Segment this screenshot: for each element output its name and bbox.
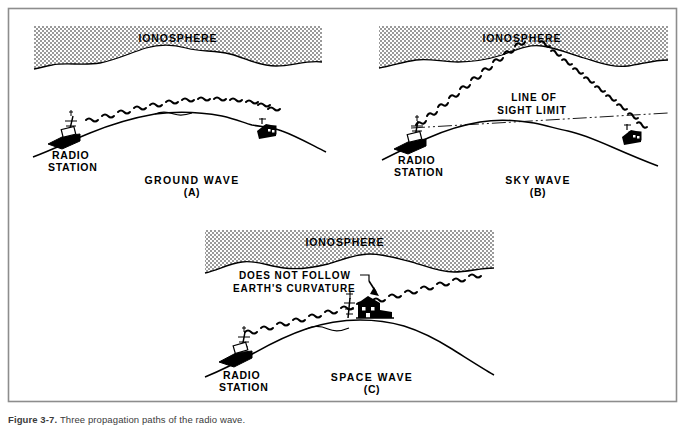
radio-propagation-diagram: IONOSPHERE — [0, 0, 690, 428]
panel-letter-c: (C) — [364, 383, 380, 395]
panel-space-wave: IONOSPHERE — [205, 230, 494, 395]
panel-letter-b: (B) — [530, 186, 546, 198]
radio-station-label-a-line1: RADIO — [52, 149, 89, 161]
panel-ground-wave: IONOSPHERE — [33, 26, 326, 198]
figure-caption-text: Three propagation paths of the radio wav… — [60, 414, 245, 425]
radio-station-a — [48, 110, 80, 149]
figure-caption-label: Figure 3-7. — [8, 414, 57, 425]
panel-letter-a: (A) — [184, 186, 200, 198]
ground-wave-path-a — [86, 98, 280, 122]
ionosphere-label-c: IONOSPHERE — [305, 236, 384, 248]
receiver-house-c — [344, 292, 394, 318]
radio-station-label-a-line2: STATION — [48, 161, 97, 173]
radio-station-label-c-line1: RADIO — [223, 369, 260, 381]
curvature-note-arrowhead — [370, 287, 379, 296]
radio-station-c — [219, 326, 252, 367]
figure-border — [9, 9, 677, 402]
radio-station-label-c-line2: STATION — [219, 381, 268, 393]
radio-station-b — [394, 115, 426, 154]
radio-station-label-b-line2: STATION — [394, 166, 443, 178]
curvature-note-leader — [360, 275, 369, 281]
ionosphere-label-b: IONOSPHERE — [482, 32, 561, 44]
panel-sky-wave: IONOSPHERE — [379, 26, 668, 198]
figure-caption: Figure 3-7. Three propagation paths of t… — [8, 414, 608, 425]
curvature-note-line2: EARTH'S CURVATURE — [233, 283, 356, 294]
panel-title-b: SKY WAVE — [505, 174, 571, 186]
line-of-sight-label-line1: LINE OF — [511, 92, 557, 103]
figure-root: IONOSPHERE — [0, 0, 690, 428]
ionosphere-label-a: IONOSPHERE — [138, 32, 217, 44]
radio-station-label-b-line1: RADIO — [398, 154, 435, 166]
panel-title-a: GROUND WAVE — [144, 174, 239, 186]
line-of-sight-label-line2: SIGHT LIMIT — [497, 105, 566, 116]
panel-title-c: SPACE WAVE — [331, 371, 413, 383]
receiver-building-b — [622, 124, 641, 145]
receiver-building-a — [257, 118, 276, 139]
curvature-note-line1: DOES NOT FOLLOW — [239, 270, 351, 281]
